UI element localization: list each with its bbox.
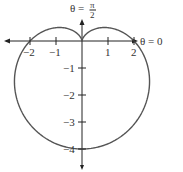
- x-tick-label: 2: [131, 46, 137, 58]
- theta-half-pi-numerator: π: [90, 0, 95, 10]
- polar-plot: −2−112−1−2−3−4 θ = 0 θ = π 2: [0, 0, 183, 172]
- y-tick-label: −2: [63, 89, 75, 101]
- y-tick-label: −4: [63, 143, 75, 155]
- x-tick-label: −1: [49, 46, 61, 58]
- y-axis-down-arrow: [80, 165, 84, 170]
- theta-half-pi-denominator: 2: [90, 10, 95, 20]
- theta-zero-label: θ = 0: [140, 35, 163, 47]
- y-tick-label: −1: [63, 62, 75, 74]
- x-tick-label: −2: [23, 46, 35, 58]
- y-axis-up-arrow: [80, 19, 85, 25]
- x-axis-left-arrow: [4, 39, 10, 44]
- x-tick-label: 1: [105, 46, 111, 58]
- y-tick-label: −3: [63, 116, 75, 128]
- theta-half-pi-prefix: θ =: [70, 2, 84, 14]
